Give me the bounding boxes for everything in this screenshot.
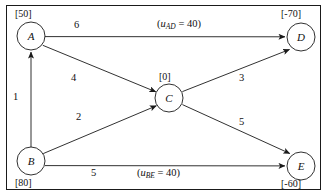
- network-flow-figure: A D C B E [50] [-70] [0] [80] [-60] 6 4 …: [0, 0, 328, 196]
- capacity-value-BE: 40: [166, 167, 177, 178]
- supply-label-C: [0]: [159, 71, 171, 82]
- edge-A-C: [43, 45, 156, 92]
- capacity-value-AD: 40: [187, 18, 198, 29]
- edge-C-D: [182, 50, 289, 92]
- supply-label-B: [80]: [15, 177, 32, 188]
- capacity-subscript-AD: AD: [166, 22, 176, 31]
- capacity-equals-AD: =: [176, 18, 187, 29]
- supply-label-D: [-70]: [281, 8, 301, 19]
- edge-cost-A-C: 4: [71, 72, 76, 83]
- edge-cost-B-C: 2: [76, 111, 81, 122]
- edge-cost-A-D: 6: [74, 19, 79, 30]
- capacity-equals-BE: =: [155, 167, 166, 178]
- capacity-suffix-AD: ): [197, 18, 201, 29]
- node-label-A: A: [17, 22, 45, 50]
- capacity-suffix-BE: ): [177, 167, 181, 178]
- edge-capacity-A-D: (uAD = 40): [157, 18, 201, 29]
- capacity-symbol-AD: u: [161, 18, 166, 29]
- supply-label-A: [50]: [15, 8, 32, 19]
- edge-cost-C-D: 3: [239, 72, 244, 83]
- supply-label-E: [-60]: [281, 178, 301, 189]
- node-label-B: B: [17, 147, 45, 175]
- edge-cost-C-E: 5: [239, 116, 244, 127]
- node-label-D: D: [287, 23, 315, 51]
- edge-B-C: [43, 106, 156, 154]
- node-label-E: E: [287, 152, 315, 180]
- capacity-symbol-BE: u: [141, 167, 146, 178]
- edge-C-E: [182, 105, 289, 154]
- node-label-C: C: [155, 84, 183, 112]
- edge-cost-B-A: 1: [13, 91, 18, 102]
- edge-cost-B-E: 5: [91, 167, 96, 178]
- edge-capacity-B-E: (uBE = 40): [137, 167, 180, 178]
- capacity-subscript-BE: BE: [146, 171, 155, 180]
